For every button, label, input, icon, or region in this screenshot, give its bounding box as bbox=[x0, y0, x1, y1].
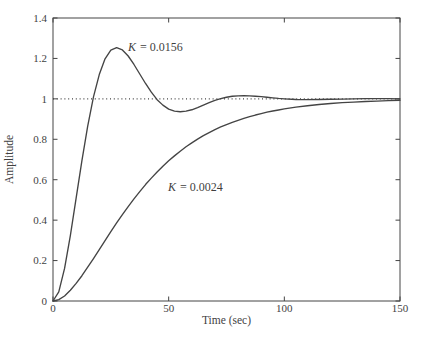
y-tick-label: 1.4 bbox=[33, 12, 47, 24]
curve-k-0024 bbox=[53, 100, 400, 301]
annotation-k-0024: K= 0.0024 bbox=[167, 180, 223, 194]
x-tick-label: 150 bbox=[392, 302, 409, 314]
y-tick-label: 0.4 bbox=[33, 214, 47, 226]
x-tick-label: 0 bbox=[50, 302, 56, 314]
annotation-k-0024-var: K bbox=[167, 180, 177, 194]
step-response-figure: 05010015000.20.40.60.811.21.4 Time (sec)… bbox=[0, 0, 427, 347]
annotation-k-0156: K= 0.0156 bbox=[127, 40, 183, 54]
annotation-k-0024-value: = 0.0024 bbox=[180, 180, 223, 194]
tick-labels-group: 05010015000.20.40.60.811.21.4 bbox=[33, 12, 409, 314]
y-axis-label: Amplitude bbox=[3, 135, 16, 184]
annotation-k-0156-value: = 0.0156 bbox=[140, 40, 183, 54]
x-tick-label: 100 bbox=[276, 302, 293, 314]
annotation-k-0156-var: K bbox=[127, 40, 137, 54]
y-tick-label: 0 bbox=[42, 295, 48, 307]
y-tick-label: 1 bbox=[42, 93, 48, 105]
y-tick-label: 0.8 bbox=[33, 133, 47, 145]
curves-group bbox=[53, 48, 400, 301]
curve-k-0156 bbox=[53, 48, 400, 301]
y-tick-label: 0.2 bbox=[33, 254, 47, 266]
y-tick-label: 1.2 bbox=[33, 52, 47, 64]
y-tick-label: 0.6 bbox=[33, 174, 47, 186]
x-tick-label: 50 bbox=[163, 302, 175, 314]
chart-canvas: 05010015000.20.40.60.811.21.4 Time (sec)… bbox=[0, 0, 427, 347]
x-axis-label: Time (sec) bbox=[202, 314, 251, 327]
